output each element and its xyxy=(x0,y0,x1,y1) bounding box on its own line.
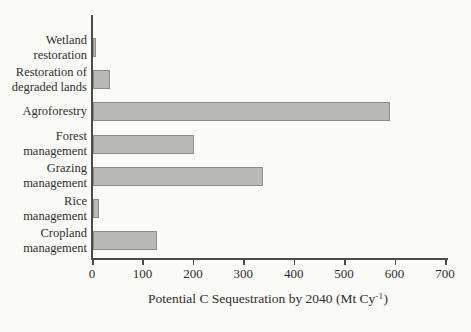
x-tick-label-700: 700 xyxy=(423,266,467,282)
category-label-2: Agroforestry xyxy=(0,104,87,119)
x-axis-title: Potential C Sequestration by 2040 (Mt Cy… xyxy=(78,291,458,307)
bar-6 xyxy=(93,231,157,250)
x-axis-title-text: Potential C Sequestration by 2040 (Mt Cy xyxy=(148,291,375,306)
x-tick-300 xyxy=(243,260,245,265)
category-label-3: Forestmanagement xyxy=(0,129,87,159)
x-tick-label-200: 200 xyxy=(171,266,215,282)
x-tick-100 xyxy=(142,260,144,265)
bar-2 xyxy=(93,102,390,121)
x-tick-400 xyxy=(294,260,296,265)
bar-0 xyxy=(93,38,96,57)
x-tick-label-600: 600 xyxy=(373,266,417,282)
x-tick-label-400: 400 xyxy=(272,266,316,282)
category-label-6: Croplandmanagement xyxy=(0,226,87,256)
x-tick-label-0: 0 xyxy=(70,266,114,282)
x-tick-label-500: 500 xyxy=(322,266,366,282)
bar-chart-figure: WetlandrestorationRestoration ofdegraded… xyxy=(0,0,471,332)
bar-5 xyxy=(93,199,99,218)
bar-3 xyxy=(93,135,194,154)
category-label-1: Restoration ofdegraded lands xyxy=(0,65,87,95)
x-tick-500 xyxy=(344,260,346,265)
bar-1 xyxy=(93,70,110,89)
category-label-4: Grazingmanagement xyxy=(0,161,87,191)
x-tick-200 xyxy=(193,260,195,265)
x-axis-title-close: ) xyxy=(383,291,388,306)
category-label-0: Wetlandrestoration xyxy=(0,33,87,63)
x-tick-0 xyxy=(92,260,94,265)
x-tick-600 xyxy=(395,260,397,265)
x-tick-label-300: 300 xyxy=(221,266,265,282)
x-tick-700 xyxy=(445,260,447,265)
x-tick-label-100: 100 xyxy=(120,266,164,282)
bar-4 xyxy=(93,167,263,186)
category-label-5: Ricemanagement xyxy=(0,194,87,224)
